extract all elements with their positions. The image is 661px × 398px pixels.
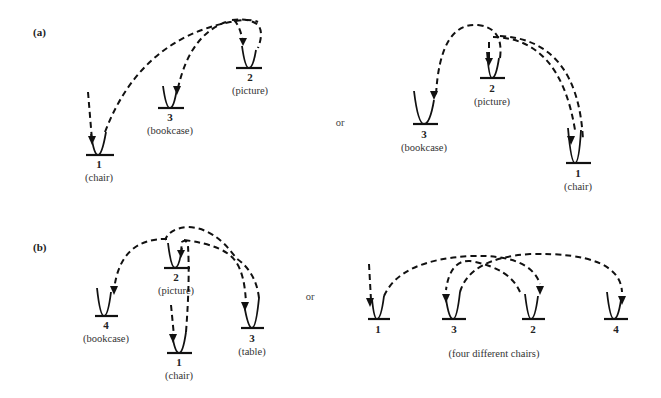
node-name: (chair): [564, 181, 592, 193]
node-number: 4: [103, 319, 109, 331]
panel-b-left: 4 (bookcase) 2 (picture) 1 (chair) 3 (ta…: [83, 227, 266, 382]
node-name: (table): [238, 346, 266, 358]
node-number: 3: [451, 323, 457, 335]
node-number: 2: [530, 323, 536, 335]
node-number: 3: [167, 111, 173, 123]
panel-a-label: (a): [33, 26, 46, 39]
node-chair: 1 (chair): [85, 132, 114, 184]
arrow-icon: [177, 250, 185, 258]
node-number: 2: [489, 82, 495, 94]
arrow-icon: [567, 136, 575, 145]
path-2-to-1-inner: [493, 37, 575, 130]
caption: (four different chairs): [449, 348, 540, 360]
node-picture: 2 (picture): [474, 52, 511, 108]
entry-path: [369, 264, 371, 300]
arrow-icon: [442, 294, 450, 303]
node-name: (bookcase): [401, 142, 448, 154]
arrow-icon: [241, 302, 249, 311]
path-1-to-2: [384, 256, 540, 296]
node-number: 2: [247, 71, 253, 83]
cup-icon: [91, 132, 106, 155]
cup-icon: [372, 296, 384, 319]
path-2-to-3: [446, 261, 520, 292]
path-2-to-1-outer: [500, 36, 583, 140]
or-connector: or: [336, 117, 345, 128]
node-picture: 2 (picture): [232, 46, 269, 97]
arrow-icon: [536, 286, 544, 295]
node-name: (bookcase): [83, 333, 130, 345]
node-number: 3: [421, 128, 427, 140]
node-name: (bookcase): [147, 125, 194, 137]
arrow-icon: [169, 334, 177, 343]
panel-b-label: (b): [33, 241, 47, 254]
path-2-to-4: [114, 239, 167, 290]
arrow-icon: [430, 91, 438, 100]
arrow-icon: [88, 136, 96, 145]
node-name: (picture): [474, 96, 511, 108]
panel-a-left: 1 (chair) 3 (picture) (bookcase) 2 (pict…: [85, 20, 269, 184]
node-number: 3: [249, 332, 255, 344]
node-number: 2: [173, 271, 179, 283]
or-connector: or: [306, 291, 315, 302]
entry-path: [88, 92, 92, 140]
node-name: (chair): [165, 370, 193, 382]
cup-icon: [97, 288, 111, 316]
memory-locus-diagram: (a) 1 (chair) 3 (picture) (bookcase) 2 (…: [0, 0, 661, 398]
node-table: 3 (table): [238, 298, 266, 358]
arrow-icon: [173, 86, 181, 95]
node-number: 1: [96, 158, 102, 170]
path-2-to-3: [178, 22, 226, 88]
node-name: (picture): [232, 85, 269, 97]
cup-icon: [568, 128, 581, 163]
node-number: 4: [613, 323, 619, 335]
arrow-icon: [239, 38, 247, 46]
entry-path: [171, 305, 174, 336]
cup-icon: [525, 294, 538, 319]
cup-icon: [242, 46, 256, 68]
node-name: (chair): [85, 172, 113, 184]
panel-b-right: 1 3 2 4 (four different chairs): [366, 254, 628, 360]
node-number: 1: [375, 323, 381, 335]
cup-icon: [414, 91, 434, 124]
arrow-icon: [618, 296, 626, 305]
panel-a-right: 3 (bookcase) 2 (picture) 1 (chair): [401, 25, 593, 193]
node-number: 1: [575, 167, 581, 179]
node-chair-2: 2: [522, 294, 545, 335]
node-bookcase: 4 (bookcase): [83, 288, 130, 345]
node-number: 1: [176, 356, 182, 368]
node-chair: 1 (chair): [165, 332, 193, 382]
node-bookcase: 3 (bookcase): [401, 91, 448, 154]
node-bookcase: 3 (picture) (bookcase): [147, 86, 194, 137]
arrow-icon: [485, 58, 493, 66]
